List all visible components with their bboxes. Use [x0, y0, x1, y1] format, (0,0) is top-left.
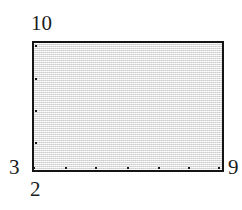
x-axis-max-label: 9 — [228, 157, 239, 178]
x-axis-tick-dot — [33, 167, 35, 169]
x-axis-tick-dot — [95, 167, 97, 169]
y-axis-tick-dot — [35, 170, 37, 172]
x-axis-min-label: 2 — [30, 179, 41, 200]
y-axis-tick-dot — [35, 45, 37, 47]
y-axis-min-label: 3 — [9, 157, 20, 178]
x-axis-tick-dot — [65, 167, 67, 169]
x-axis-tick-dot — [188, 167, 190, 169]
y-axis-max-label: 10 — [31, 13, 52, 34]
x-axis-tick-dot — [158, 167, 160, 169]
x-axis-tick-dot — [127, 167, 129, 169]
y-axis-tick-dot — [35, 110, 37, 112]
plot-frame — [32, 41, 224, 172]
y-axis-tick-dot — [35, 142, 37, 144]
y-axis-tick-dot — [35, 78, 37, 80]
figure-canvas: 10 3 2 9 — [0, 0, 242, 210]
x-axis-tick-dot — [218, 167, 220, 169]
